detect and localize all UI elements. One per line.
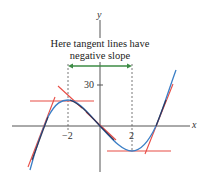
annotation-text: Here tangent lines have negative slope <box>48 38 152 62</box>
tick-label-30: 30 <box>84 80 94 90</box>
annotation-line-2: negative slope <box>48 50 152 62</box>
tick-label-2: 2 <box>129 131 134 141</box>
annotation-line-1: Here tangent lines have <box>48 38 152 50</box>
graph-canvas <box>0 0 202 181</box>
x-axis-label: x <box>192 120 196 130</box>
tick-label-neg2: −2 <box>62 131 73 141</box>
y-axis-label: y <box>97 10 101 20</box>
